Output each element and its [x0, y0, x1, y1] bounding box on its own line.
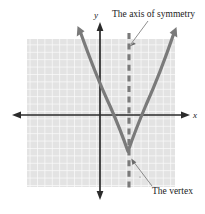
grid-background [27, 39, 175, 187]
parabola-figure: y x The axis of symmetry The vertex [0, 0, 205, 214]
axis-of-symmetry-label: The axis of symmetry [112, 9, 195, 19]
vertex-label: The vertex [152, 186, 193, 196]
graph-canvas: y x The axis of symmetry The vertex [0, 0, 205, 214]
x-axis-label: x [192, 110, 197, 120]
y-axis-label: y [93, 10, 98, 20]
